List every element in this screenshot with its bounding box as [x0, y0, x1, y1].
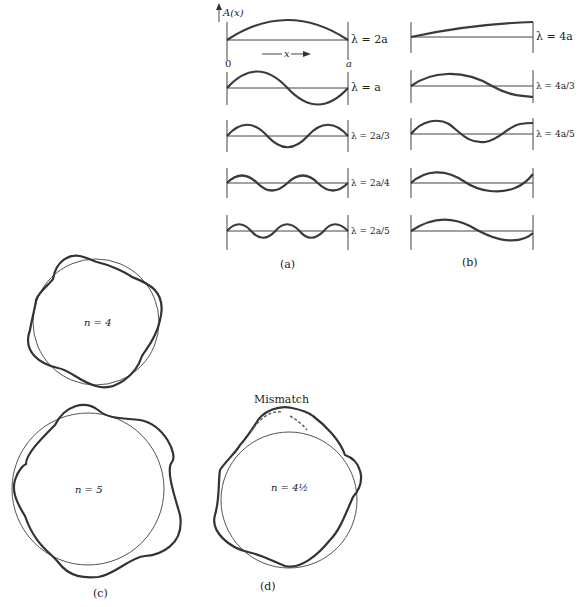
mode-label: λ = 2a/3 — [351, 131, 390, 141]
orbit-n-5: n = 5 (c) — [12, 405, 181, 600]
x-axis-label: x — [284, 48, 290, 59]
orbit-n-4: n = 4 — [28, 256, 162, 388]
amplitude-axis-label: A(x) — [222, 7, 244, 18]
standing-waves-figure: A(x) λ = 2a 0 a x λ = a λ = — [0, 0, 580, 607]
mode-label: λ = 2a/5 — [351, 226, 390, 236]
string-mode-a-3: λ = 2a/3 — [227, 120, 390, 152]
string-mode-b-4 — [411, 168, 533, 198]
string-mode-a-2: λ = a — [227, 72, 381, 106]
arrow-right-icon — [303, 51, 311, 57]
string-mode-b-1: λ = 4a — [411, 22, 573, 53]
arrow-up-icon — [216, 3, 222, 10]
orbit-label: n = 4½ — [271, 482, 308, 493]
string-mode-b-5 — [411, 215, 533, 250]
orbit-label: n = 4 — [84, 317, 112, 328]
panel-a-caption: (a) — [280, 258, 295, 271]
mismatch-annotation: Mismatch — [254, 393, 309, 406]
mismatch-segment-right — [290, 416, 307, 430]
orbit-label: n = 5 — [75, 484, 103, 495]
orbit-n-4-5: Mismatch n = 4½ (d) — [214, 393, 361, 593]
string-mode-b-2: λ = 4a/3 — [411, 70, 575, 103]
panel-b-caption: (b) — [462, 256, 478, 269]
origin-label: 0 — [225, 58, 231, 69]
mode-label: λ = 4a/3 — [536, 81, 575, 91]
end-label: a — [346, 58, 352, 69]
mode-label: λ = 2a — [351, 33, 388, 46]
string-mode-a-5: λ = 2a/5 — [227, 215, 390, 250]
mode-label: λ = a — [351, 81, 381, 94]
panel-d-caption: (d) — [260, 580, 276, 593]
mode-label: λ = 4a — [536, 30, 573, 43]
panel-c-caption: (c) — [93, 587, 108, 600]
string-mode-a-4: λ = 2a/4 — [227, 168, 390, 198]
panel-a: A(x) λ = 2a 0 a x λ = a λ = — [216, 3, 390, 271]
string-mode-b-3: λ = 4a/5 — [411, 118, 575, 150]
panel-b: λ = 4a λ = 4a/3 λ = 4a/5 (b — [411, 22, 575, 269]
mode-label: λ = 2a/4 — [351, 178, 390, 188]
mode-label: λ = 4a/5 — [536, 129, 575, 139]
